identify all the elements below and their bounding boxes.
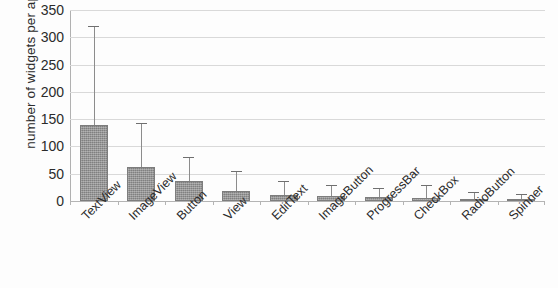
gridline-200 xyxy=(70,92,545,93)
error-bar-cap-checkbox xyxy=(421,185,432,186)
bar-chart-figure: number of widgets per app 05010015020025… xyxy=(0,0,558,288)
plot-area xyxy=(70,10,545,201)
y-tick-label-100: 100 xyxy=(24,139,64,153)
x-tick-mark-8 xyxy=(450,201,451,205)
error-bar-stem-imageview xyxy=(141,123,142,167)
error-bar-stem-imagebutton xyxy=(331,185,332,196)
y-tick-label-350: 350 xyxy=(24,3,64,17)
x-tick-mark-end xyxy=(544,201,545,205)
error-bar-cap-imageview xyxy=(136,123,147,124)
gridline-300 xyxy=(70,37,545,38)
x-tick-mark-6 xyxy=(355,201,356,205)
x-tick-mark-1 xyxy=(118,201,119,205)
y-tick-label-200: 200 xyxy=(24,85,64,99)
y-tick-label-250: 250 xyxy=(24,58,64,72)
error-bar-cap-edittext xyxy=(278,181,289,182)
gridline-350 xyxy=(70,10,545,11)
error-bar-cap-button xyxy=(183,157,194,158)
y-tick-label-50: 50 xyxy=(24,167,64,181)
x-tick-mark-7 xyxy=(403,201,404,205)
y-axis-tick-labels: 050100150200250300350 xyxy=(18,0,64,288)
x-tick-mark-5 xyxy=(308,201,309,205)
x-tick-mark-3 xyxy=(213,201,214,205)
error-bar-cap-textview xyxy=(88,26,99,27)
y-tick-label-300: 300 xyxy=(24,30,64,44)
x-tick-mark-0 xyxy=(70,201,71,205)
error-bar-cap-imagebutton xyxy=(326,185,337,186)
y-tick-label-0: 0 xyxy=(24,194,64,208)
y-tick-label-150: 150 xyxy=(24,112,64,126)
gridline-150 xyxy=(70,119,545,120)
error-bar-stem-button xyxy=(189,157,190,181)
error-bar-cap-progressbar xyxy=(373,188,384,189)
x-tick-mark-9 xyxy=(498,201,499,205)
x-tick-mark-2 xyxy=(165,201,166,205)
error-bar-stem-edittext xyxy=(284,181,285,195)
error-bar-stem-view xyxy=(236,171,237,191)
error-bar-stem-textview xyxy=(94,26,95,124)
error-bar-cap-view xyxy=(231,171,242,172)
x-tick-mark-4 xyxy=(260,201,261,205)
gridline-250 xyxy=(70,65,545,66)
